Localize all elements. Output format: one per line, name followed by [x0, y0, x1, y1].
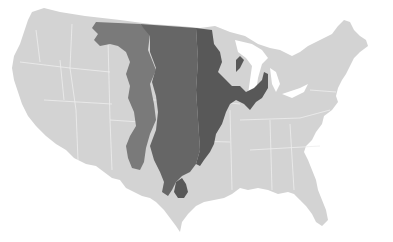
us-map: [0, 0, 393, 242]
